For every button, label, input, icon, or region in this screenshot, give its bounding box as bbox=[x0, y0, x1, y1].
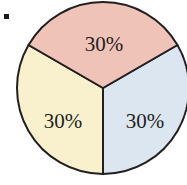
pie-slice-label-top: 30% bbox=[85, 32, 124, 56]
pie-chart-figure: 30% 30% 30% bbox=[0, 0, 187, 185]
pie-slice-label-bottom-right: 30% bbox=[126, 109, 165, 133]
pie-chart: 30% 30% 30% bbox=[0, 0, 187, 185]
pie-slice-label-bottom-left: 30% bbox=[44, 109, 83, 133]
